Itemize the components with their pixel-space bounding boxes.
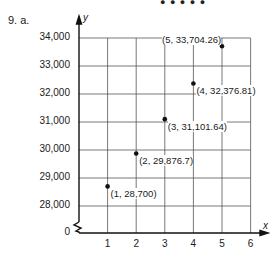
data-point (134, 151, 139, 156)
y-axis-label: y (83, 12, 88, 23)
x-axis-label: x (263, 220, 268, 231)
data-point (105, 184, 110, 189)
y-tick-label: 31,000 (20, 115, 70, 126)
point-label: (2, 29,876.7) (139, 155, 193, 166)
x-tick-label: 2 (130, 238, 142, 249)
y-tick-label: 28,000 (20, 199, 70, 210)
point-label: (4, 32,376.81) (196, 85, 255, 96)
point-label: (1, 28,700) (111, 188, 157, 199)
data-point (163, 117, 168, 122)
y-tick-label: 32,000 (20, 87, 70, 98)
grid-lines (79, 38, 251, 233)
x-tick-label: 3 (159, 238, 171, 249)
data-point (191, 81, 196, 86)
x-tick-label: 5 (216, 238, 228, 249)
y-tick-label: 34,000 (20, 31, 70, 42)
point-label: (5, 33,704.26) (162, 34, 221, 45)
y-tick-label: 33,000 (20, 59, 70, 70)
y-tick-label: 29,000 (20, 171, 70, 182)
x-tick-label: 6 (245, 238, 257, 249)
point-label: (3, 31,101.64) (168, 121, 227, 132)
x-tick-label: 1 (102, 238, 114, 249)
x-tick-label: 4 (187, 238, 199, 249)
y-tick-label: 0 (20, 226, 70, 237)
y-tick-label: 30,000 (20, 143, 70, 154)
